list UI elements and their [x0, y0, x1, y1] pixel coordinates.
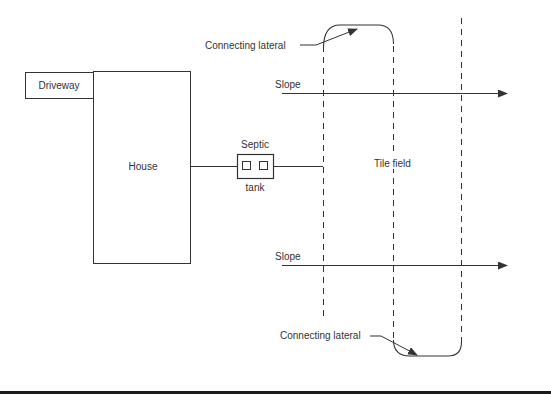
- house-label: House: [129, 161, 158, 172]
- top-lateral-callout: Connecting lateral: [205, 29, 357, 51]
- septic-label: Septic: [241, 139, 269, 150]
- tile-lines: [324, 18, 462, 342]
- septic-diagram: Driveway House Septic tank Connecting la…: [0, 0, 551, 400]
- slope-arrow-top: Slope: [275, 79, 507, 94]
- house: House: [94, 72, 191, 264]
- slope-bottom-label: Slope: [275, 251, 301, 262]
- bottom-rule: [0, 391, 551, 394]
- septic-tank: Septic tank: [238, 139, 274, 193]
- septic-compartment-icon: [260, 162, 268, 170]
- driveway-label: Driveway: [38, 80, 79, 91]
- driveway: Driveway: [26, 73, 94, 99]
- top-lateral-label: Connecting lateral: [205, 40, 286, 51]
- slope-arrow-bottom: Slope: [275, 251, 507, 266]
- tank-label: tank: [246, 182, 266, 193]
- top-connecting-lateral: [324, 25, 394, 48]
- slope-top-label: Slope: [275, 79, 301, 90]
- bottom-lateral-label: Connecting lateral: [280, 330, 361, 341]
- septic-compartment-icon: [243, 162, 251, 170]
- tile-field-label: Tile field: [374, 158, 411, 169]
